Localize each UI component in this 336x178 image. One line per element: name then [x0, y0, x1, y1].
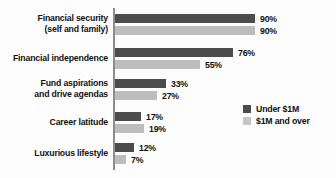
- bar-value-label: 19%: [149, 123, 166, 134]
- bar-value-label: 7%: [131, 154, 143, 165]
- bar: [115, 155, 126, 164]
- bar: [115, 26, 255, 35]
- bar: [115, 14, 255, 23]
- category-label: Luxurious lifestyle: [0, 148, 108, 159]
- legend-item: $1M and over: [243, 115, 314, 126]
- bar: [115, 91, 157, 100]
- category-label: Career latitude: [0, 117, 108, 128]
- bar-value-label: 55%: [205, 59, 222, 70]
- legend-swatch-icon: [243, 117, 251, 125]
- bar-value-label: 17%: [146, 111, 163, 122]
- chart-legend: Under $1M$1M and over: [243, 103, 314, 126]
- bar: [115, 124, 144, 133]
- bar-value-label: 12%: [139, 142, 156, 153]
- legend-label: Under $1M: [256, 103, 299, 114]
- bar-chart: Financial security (self and family)90%9…: [0, 0, 336, 178]
- bar-value-label: 90%: [260, 25, 277, 36]
- bar-value-label: 27%: [162, 90, 179, 101]
- bar-value-label: 90%: [260, 13, 277, 24]
- bar: [115, 112, 141, 121]
- category-label: Financial security (self and family): [0, 13, 108, 34]
- category-label: Financial independence: [0, 53, 108, 64]
- legend-swatch-icon: [243, 105, 251, 113]
- legend-item: Under $1M: [243, 103, 314, 114]
- bar: [115, 79, 166, 88]
- bar-value-label: 33%: [171, 78, 188, 89]
- bar: [115, 48, 233, 57]
- bar: [115, 60, 200, 69]
- plot-area: Financial security (self and family)90%9…: [0, 0, 336, 178]
- bar-value-label: 76%: [238, 47, 255, 58]
- bar: [115, 143, 134, 152]
- category-label: Fund aspirations and drive agendas: [0, 78, 108, 99]
- legend-label: $1M and over: [256, 115, 310, 126]
